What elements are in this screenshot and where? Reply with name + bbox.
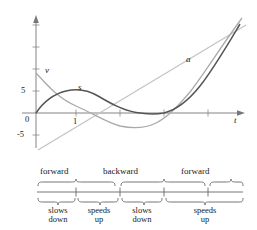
brace-speeds-up-1 [78,198,118,205]
figure-canvas [0,0,257,230]
x-axis-label: t [234,116,237,125]
direction-label-forward-1: forward [40,167,69,176]
brace-slows-down-2 [122,198,162,205]
velocity-curve-label: v [45,66,49,75]
timeline-group [37,179,243,205]
y-axis-arrow [33,15,39,23]
brace-forward-1 [38,179,115,186]
speed-label-line2: down [38,215,78,224]
speed-label-line2: up [79,215,119,224]
y-tick-label-5: 5 [21,86,25,95]
motion-figure: 5 0 -5 1 t v s a forward backward forwar… [0,0,257,230]
speed-braces [38,198,243,205]
brace-backward [121,179,205,186]
position-curve-label: s [78,83,82,92]
speed-label-slows-down-2: slows down [122,206,162,224]
speed-label-slows-down-1: slows down [38,206,78,224]
direction-label-backward: backward [103,167,138,176]
x-axis-arrow [237,110,245,116]
speed-label-line2: down [122,215,162,224]
velocity-curve [36,18,242,128]
speed-label-line2: up [184,215,226,224]
acceleration-curve-label: a [186,55,191,64]
x-tick-label-1: 1 [73,117,77,126]
direction-label-forward-2: forward [181,167,210,176]
y-tick-label-minus5: -5 [17,130,24,139]
brace-slows-down-1 [38,198,75,205]
speed-label-speeds-up-2: speeds up [184,206,226,224]
brace-forward-2 [210,179,243,186]
direction-braces [38,179,243,186]
acceleration-curve [38,25,246,150]
brace-speeds-up-2 [166,198,243,205]
speed-label-speeds-up-1: speeds up [79,206,119,224]
y-tick-label-0: 0 [25,115,29,124]
